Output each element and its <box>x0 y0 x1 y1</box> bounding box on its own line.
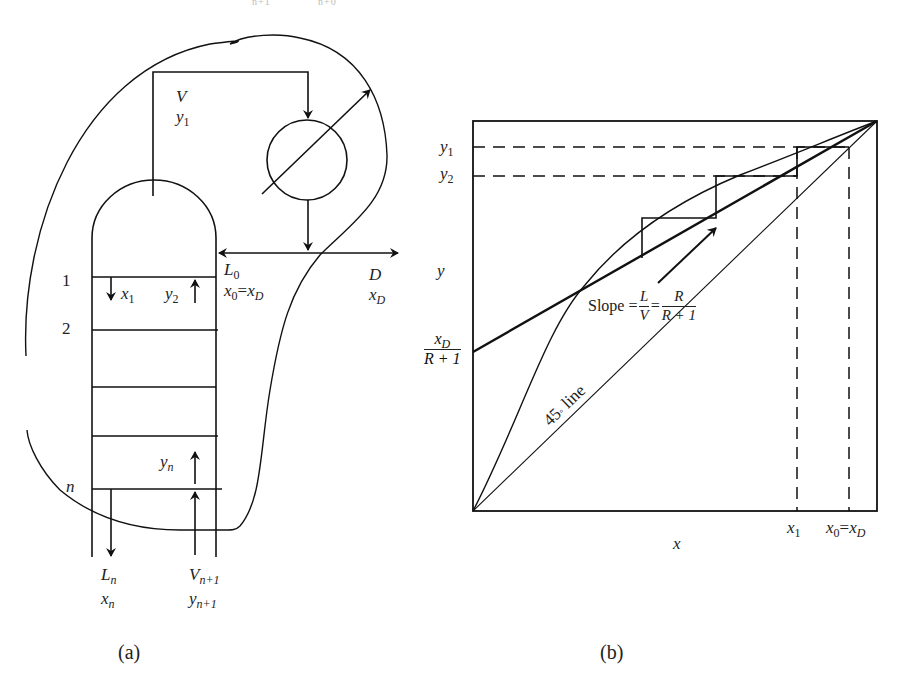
cropped-header-right: n+0 <box>318 0 337 7</box>
figure: n+1 n+0 V y1 L0 x0=xD D xD 1 2 n x1 y2 y… <box>0 0 899 686</box>
vn1-flow-label: Vn+1 <box>189 566 220 583</box>
reflux-flow-label: L0 <box>224 261 239 278</box>
x1-label: x1 <box>121 285 135 302</box>
y2-label: y2 <box>165 285 179 302</box>
tray-2-label: 2 <box>62 320 71 337</box>
control-envelope <box>26 35 387 530</box>
x1-tick-label: x1 <box>787 519 801 536</box>
vapor-comp-label: y1 <box>176 108 190 125</box>
column-dome <box>92 180 216 238</box>
distillate-comp-label: xD <box>369 286 385 303</box>
intercept-label: xD R + 1 <box>424 331 461 368</box>
tray-n-label: n <box>66 478 75 495</box>
panel-b-caption: (b) <box>600 641 623 664</box>
slope-fraction-lv: LV <box>639 289 648 324</box>
slope-label: Slope = LV = RR + 1 <box>588 289 696 324</box>
condenser-coolant-arrow <box>262 90 370 194</box>
yn1-comp-label: yn+1 <box>189 590 217 607</box>
vapor-flow-label: V <box>176 88 186 105</box>
slope-fraction-r: RR + 1 <box>662 289 696 324</box>
cropped-header-left: n+1 <box>252 0 271 7</box>
slope-pointer-arrow <box>658 228 716 283</box>
yn-label: yn <box>160 453 174 470</box>
y-axis-label: y <box>437 262 445 279</box>
ln-flow-label: Ln <box>101 566 116 583</box>
xn-comp-label: xn <box>101 590 115 607</box>
panel-a-caption: (a) <box>118 641 140 664</box>
column-diagram <box>26 35 398 557</box>
x-axis-label: x <box>673 535 681 552</box>
stage-steps <box>642 147 849 258</box>
xd-tick-label: x0=xD <box>826 519 865 536</box>
reflux-comp-label: x0=xD <box>224 282 263 299</box>
condenser-icon <box>267 120 347 200</box>
y2-tick-label: y2 <box>440 165 454 182</box>
y1-tick-label: y1 <box>440 138 454 155</box>
tray-1-label: 1 <box>62 272 71 289</box>
distillate-flow-label: D <box>369 266 381 283</box>
